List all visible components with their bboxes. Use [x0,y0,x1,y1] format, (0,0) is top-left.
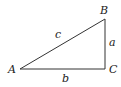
vertex-label-b: B [99,4,108,17]
side-label-c: c [55,28,61,41]
side-label-a: a [109,36,116,49]
triangle-shape [20,19,105,69]
vertex-label-c: C [109,63,118,76]
vertex-label-a: A [7,63,16,76]
side-label-b: b [62,72,69,85]
triangle-diagram: A B C a b c [0,0,121,87]
